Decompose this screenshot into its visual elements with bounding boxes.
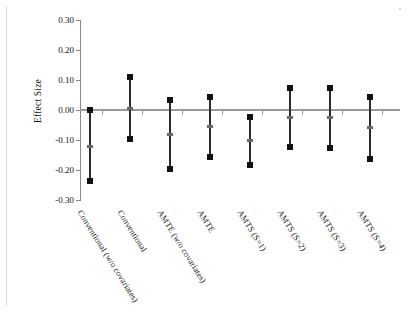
lower-bound-marker <box>167 166 173 172</box>
lower-bound-marker <box>247 162 253 168</box>
x-axis-category-label: AMTS (S=2) <box>276 208 309 253</box>
effect-size-forest-chart: Effect Size 0.300.200.100.00-0.10-0.20-0… <box>0 0 411 327</box>
x-tick-mark <box>382 111 383 115</box>
plot-area: 0.300.200.100.00-0.10-0.20-0.30 <box>80 20 400 200</box>
estimate-marker <box>327 116 333 119</box>
x-tick-mark <box>262 111 263 115</box>
upper-bound-marker <box>327 85 333 91</box>
estimate-marker <box>247 139 253 142</box>
x-tick-mark <box>342 111 343 115</box>
upper-bound-marker <box>87 107 93 113</box>
y-tick-mark <box>76 80 80 81</box>
y-tick-mark <box>76 200 80 201</box>
upper-bound-marker <box>207 94 213 100</box>
x-axis-category-label: AMTS (S=1) <box>236 208 269 253</box>
x-tick-mark <box>102 111 103 115</box>
x-tick-mark <box>222 111 223 115</box>
lower-bound-marker <box>287 144 293 150</box>
lower-bound-marker <box>207 154 213 160</box>
x-axis-category-label: Conventional <box>116 208 150 254</box>
y-tick-label: 0.10 <box>40 75 74 85</box>
figure-corner-dot <box>399 8 401 10</box>
figure-left-rule <box>6 6 7 306</box>
estimate-marker <box>207 125 213 128</box>
x-tick-mark <box>142 111 143 115</box>
y-tick-label: -0.30 <box>40 195 74 205</box>
x-axis-category-label: AMTS (S=4) <box>356 208 389 253</box>
x-tick-mark <box>182 111 183 115</box>
upper-bound-marker <box>167 97 173 103</box>
y-tick-label: 0.20 <box>40 45 74 55</box>
y-tick-label: -0.10 <box>40 135 74 145</box>
estimate-marker <box>167 133 173 136</box>
x-tick-mark <box>302 111 303 115</box>
lower-bound-marker <box>127 136 133 142</box>
x-axis-category-label: Conventional (w/o covariates) <box>76 208 141 304</box>
y-tick-mark <box>76 140 80 141</box>
y-tick-label: 0.00 <box>40 105 74 115</box>
x-axis-category-label: AMTE <box>196 208 218 234</box>
y-tick-mark <box>76 110 80 111</box>
estimate-marker <box>87 145 93 148</box>
estimate-marker <box>287 116 293 119</box>
y-tick-mark <box>76 20 80 21</box>
x-axis-category-label: AMTS (S=3) <box>316 208 349 253</box>
y-tick-mark <box>76 170 80 171</box>
lower-bound-marker <box>87 178 93 184</box>
y-tick-label: 0.30 <box>40 15 74 25</box>
estimate-marker <box>367 126 373 129</box>
upper-bound-marker <box>247 114 253 120</box>
estimate-marker <box>127 107 133 110</box>
y-tick-mark <box>76 50 80 51</box>
upper-bound-marker <box>127 74 133 80</box>
y-tick-label: -0.20 <box>40 165 74 175</box>
x-axis-category-label: AMTE (w/o covariates) <box>156 208 209 285</box>
lower-bound-marker <box>367 156 373 162</box>
upper-bound-marker <box>367 94 373 100</box>
lower-bound-marker <box>327 145 333 151</box>
upper-bound-marker <box>287 85 293 91</box>
